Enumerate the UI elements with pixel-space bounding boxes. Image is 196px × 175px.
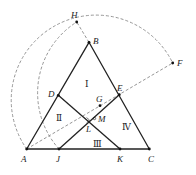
label-C: C	[148, 154, 155, 164]
label-D: D	[47, 89, 55, 99]
region-label-III: Ⅲ	[93, 139, 102, 149]
label-M: M	[97, 114, 106, 124]
outer-arc-A-H-F	[11, 15, 172, 149]
label-E: E	[116, 83, 123, 93]
label-B: B	[93, 36, 99, 46]
region-label-I: Ⅰ	[85, 79, 89, 89]
label-A: A	[20, 154, 27, 164]
region-label-IV: Ⅳ	[122, 122, 132, 132]
inner-arc-J-H	[38, 22, 77, 149]
geometry-diagram: A B C D E F G H J K L M Ⅰ Ⅱ Ⅲ Ⅳ	[0, 0, 196, 175]
label-F: F	[176, 58, 183, 68]
dashed-line-B-H	[77, 22, 89, 42]
region-label-II: Ⅱ	[56, 113, 62, 123]
label-G: G	[96, 94, 103, 104]
label-H: H	[70, 10, 78, 20]
label-J: J	[56, 154, 61, 164]
label-K: K	[116, 154, 124, 164]
label-L: L	[85, 124, 91, 134]
